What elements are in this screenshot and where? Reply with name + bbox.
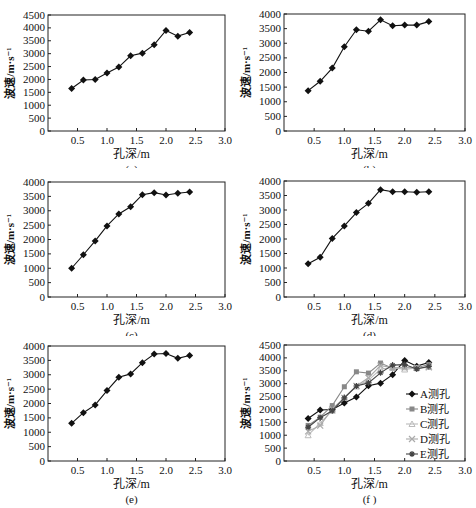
- data-point-marker: [317, 254, 324, 261]
- y-tick-label: 2000: [259, 66, 282, 78]
- data-point-marker: [317, 406, 324, 413]
- y-tick-label: 2500: [23, 60, 46, 72]
- y-tick-label: 4000: [23, 176, 46, 188]
- x-axis-label: 孔深/m: [351, 147, 388, 161]
- panel-caption: (e): [125, 493, 138, 506]
- y-tick-label: 4000: [23, 21, 46, 33]
- y-tick-label: 2000: [23, 233, 46, 245]
- legend-item: D测孔: [406, 433, 450, 445]
- data-point-marker: [389, 188, 396, 195]
- x-tick-label: 2.5: [189, 300, 203, 312]
- data-point-marker: [425, 188, 432, 195]
- x-tick-label: 1.0: [337, 134, 351, 146]
- data-point-marker: [186, 189, 193, 196]
- y-axis-label: 波速/m·s⁻¹: [239, 213, 252, 264]
- legend-item: A测孔: [406, 388, 450, 400]
- x-tick-label: 1.0: [100, 300, 114, 312]
- data-point-marker: [401, 188, 408, 195]
- y-tick-label: 1500: [23, 86, 46, 98]
- data-point-marker: [186, 29, 193, 36]
- y-tick-label: 1000: [259, 262, 282, 274]
- data-point-marker: [401, 22, 408, 29]
- x-tick-label: 3.0: [218, 464, 232, 476]
- y-tick-label: 3000: [259, 204, 282, 216]
- y-tick-label: 1500: [259, 247, 282, 259]
- y-tick-label: 3000: [259, 37, 282, 49]
- x-tick-label: 1.0: [337, 464, 351, 476]
- x-tick-label: 2.5: [189, 134, 203, 146]
- plot-frame: [284, 181, 465, 297]
- y-tick-label: 1500: [259, 81, 282, 93]
- legend-label: B测孔: [420, 403, 449, 415]
- data-point-marker: [80, 76, 87, 83]
- y-tick-label: 0: [40, 125, 46, 137]
- x-tick-label: 2.0: [398, 300, 412, 312]
- chart-panel-b: 050010001500200025003000350040000.51.01.…: [236, 0, 476, 168]
- x-tick-label: 1.0: [100, 134, 114, 146]
- x-tick-label: 3.0: [218, 300, 232, 312]
- y-tick-label: 500: [29, 440, 46, 452]
- data-point-marker: [305, 415, 312, 422]
- y-tick-label: 2000: [259, 233, 282, 245]
- data-point-marker: [163, 191, 170, 198]
- x-tick-label: 1.5: [368, 300, 382, 312]
- data-point-marker: [353, 26, 360, 33]
- x-tick-label: 1.0: [100, 464, 114, 476]
- y-tick-label: 3000: [23, 47, 46, 59]
- x-tick-label: 2.0: [398, 464, 412, 476]
- legend-item: B测孔: [406, 403, 449, 415]
- x-tick-label: 1.0: [337, 300, 351, 312]
- x-tick-label: 0.5: [307, 134, 321, 146]
- data-point-marker: [151, 189, 158, 196]
- x-tick-label: 2.0: [159, 134, 173, 146]
- y-tick-label: 2500: [259, 218, 282, 230]
- y-axis-label: 波速/m·s⁻¹: [239, 377, 252, 428]
- y-tick-label: 0: [276, 125, 282, 137]
- x-tick-label: 1.5: [130, 300, 144, 312]
- y-tick-label: 500: [29, 276, 46, 288]
- series-E测孔: [68, 350, 193, 427]
- legend-label: E测孔: [420, 448, 449, 460]
- x-tick-label: 0.5: [71, 300, 85, 312]
- chart-panel-c: 050010001500200025003000350040000.51.01.…: [0, 168, 240, 336]
- y-tick-label: 0: [40, 291, 46, 303]
- data-point-marker: [174, 33, 181, 40]
- legend-label: A测孔: [420, 388, 450, 400]
- y-tick-label: 500: [265, 110, 282, 122]
- data-point-marker: [389, 22, 396, 29]
- series-C测孔: [68, 189, 193, 272]
- series-line: [72, 353, 190, 423]
- y-axis-label: 波速/m·s⁻¹: [3, 378, 16, 429]
- y-tick-label: 500: [265, 276, 282, 288]
- y-tick-label: 2000: [23, 73, 46, 85]
- x-tick-label: 2.5: [428, 464, 442, 476]
- data-point-marker: [377, 380, 384, 387]
- data-point-marker: [186, 352, 193, 359]
- x-tick-label: 1.5: [368, 464, 382, 476]
- data-point-marker: [104, 70, 111, 77]
- data-point-marker: [163, 350, 170, 357]
- data-point-marker: [305, 260, 312, 267]
- data-point-marker: [174, 190, 181, 197]
- y-tick-label: 4000: [259, 351, 282, 363]
- chart-panel-a: 0500100015002000250030003500400045000.51…: [0, 0, 240, 168]
- y-tick-label: 0: [40, 455, 46, 467]
- plot-frame: [284, 14, 465, 131]
- y-tick-label: 2000: [23, 397, 46, 409]
- y-tick-label: 500: [265, 442, 282, 454]
- x-tick-label: 0.5: [71, 464, 85, 476]
- chart-panel-f: 0500100015002000250030003500400045000.51…: [236, 334, 476, 508]
- y-tick-label: 3000: [259, 377, 282, 389]
- y-tick-label: 4000: [23, 340, 46, 352]
- y-tick-label: 2500: [259, 390, 282, 402]
- data-point-marker: [366, 371, 371, 376]
- data-point-marker: [341, 43, 348, 50]
- x-tick-label: 3.0: [458, 464, 472, 476]
- y-tick-label: 1000: [259, 429, 282, 441]
- x-axis-label: 孔深/m: [351, 477, 388, 491]
- x-tick-label: 2.5: [428, 134, 442, 146]
- y-tick-label: 4000: [259, 8, 282, 20]
- chart-panel-d: 050010001500200025003000350040000.51.01.…: [236, 168, 476, 336]
- x-tick-label: 3.0: [458, 300, 472, 312]
- x-axis-label: 孔深/m: [351, 313, 388, 327]
